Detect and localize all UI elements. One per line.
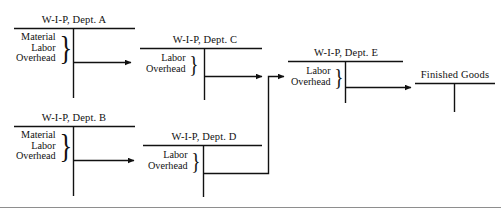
brace-glyph: } [189, 59, 198, 69]
account-entries-dept-e: Labor Overhead } [291, 66, 344, 87]
entry-label: Overhead [291, 77, 331, 88]
brace-glyph: } [334, 72, 343, 82]
entry-label: Material [21, 130, 56, 141]
entry-label: Material [21, 32, 56, 43]
entry-list-dept-e: Labor Overhead [291, 66, 331, 87]
flow-arrow-dept-d-to-dept-e [204, 77, 285, 174]
page-bottom-rule [0, 207, 501, 208]
account-title-dept-e: W-I-P, Dept. E [314, 47, 378, 58]
account-entries-dept-d: Labor Overhead } [148, 150, 201, 171]
account-entries-dept-b: Material Labor Overhead } [16, 130, 73, 162]
entry-label: Labor [161, 53, 185, 64]
entry-label: Overhead [16, 53, 56, 64]
brace-glyph: } [59, 141, 72, 151]
brace-glyph: } [191, 156, 200, 166]
entry-label: Labor [306, 66, 330, 77]
entry-label: Overhead [148, 161, 188, 172]
account-entries-dept-c: Labor Overhead } [146, 53, 199, 74]
entry-label: Labor [163, 150, 187, 161]
account-title-dept-c: W-I-P, Dept. C [173, 34, 238, 45]
entry-list-dept-a: Material Labor Overhead [16, 32, 56, 64]
flow-lines-svg [0, 0, 501, 218]
account-title-dept-a: W-I-P, Dept. A [42, 14, 107, 25]
entry-label: Overhead [146, 64, 186, 75]
cost-flow-diagram: W-I-P, Dept. A Material Labor Overhead }… [0, 0, 501, 218]
entry-list-dept-c: Labor Overhead [146, 53, 186, 74]
brace-glyph: } [59, 43, 72, 53]
entry-list-dept-d: Labor Overhead [148, 150, 188, 171]
account-title-finished-goods: Finished Goods [421, 69, 489, 80]
entry-label: Overhead [16, 151, 56, 162]
account-title-dept-b: W-I-P, Dept. B [42, 112, 107, 123]
account-entries-dept-a: Material Labor Overhead } [16, 32, 73, 64]
entry-list-dept-b: Material Labor Overhead [16, 130, 56, 162]
t-account-finished-goods [415, 84, 495, 113]
account-title-dept-d: W-I-P, Dept. D [171, 131, 236, 142]
